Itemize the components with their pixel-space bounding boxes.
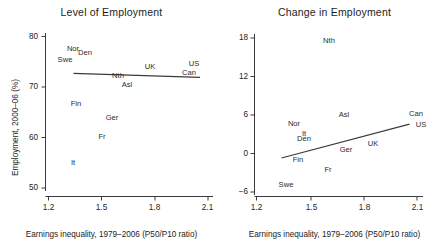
y-tick-label-0: 0 [225, 149, 248, 158]
data-point-fin: Fin [65, 99, 87, 108]
data-point-can: Can [178, 68, 200, 77]
data-point-it: It [62, 158, 84, 167]
x-axis-title-left: Earnings inequality, 1979–2006 (P50/P10 … [0, 230, 223, 239]
data-point-ger: Ger [101, 113, 123, 122]
data-point-nor: Nor [283, 119, 305, 128]
data-point-nth: Nth [318, 36, 340, 45]
y-axis-title-left: Employment, 2000–06 (%) [11, 79, 20, 176]
y-tick-label-80: 80 [16, 32, 38, 41]
data-point-uk: UK [139, 62, 161, 71]
x-axis-title-right: Earnings inequality, 1979–2006 (P50/P10 … [223, 230, 446, 239]
data-point-asl: Asl [116, 80, 138, 89]
data-point-uk: UK [362, 139, 384, 148]
data-point-us: US [410, 120, 432, 129]
data-point-den: Den [74, 48, 96, 57]
data-point-us: US [183, 59, 205, 68]
y-tick-label-50: 50 [16, 183, 38, 192]
data-point-den: Den [293, 134, 315, 143]
x-tick-label-1-5: 1.5 [87, 203, 116, 212]
y-tick-label-12: 12 [225, 72, 248, 81]
x-tick-label-1-8: 1.8 [350, 203, 379, 212]
y-tick-label-neg6: −6 [223, 187, 248, 196]
panel-change-in-employment: Change in Employment 18 12 6 0 −6 [223, 0, 446, 242]
data-point-can: Can [405, 109, 427, 118]
data-point-ger: Ger [335, 145, 357, 154]
x-tick-label-1-8: 1.8 [140, 203, 169, 212]
figure-two-panel-scatter: Level of Employment 80 70 60 50 1.2 1.5 [0, 0, 446, 242]
data-point-nth: Nth [107, 71, 129, 80]
x-tick-label-2-1: 2.1 [403, 203, 432, 212]
x-tick-label-1-2: 1.2 [34, 203, 63, 212]
panel-level-of-employment: Level of Employment 80 70 60 50 1.2 1.5 [0, 0, 223, 242]
y-tick-label-6: 6 [225, 110, 248, 119]
y-tick-label-18: 18 [225, 33, 248, 42]
data-point-swe: Swe [275, 180, 297, 189]
data-point-swe: Swe [54, 55, 76, 64]
x-tick-label-1-2: 1.2 [242, 203, 271, 212]
data-point-fr: Fr [91, 132, 113, 141]
x-tick-label-2-1: 2.1 [193, 203, 222, 212]
data-point-asl: Asl [333, 110, 355, 119]
data-point-fin: Fin [287, 155, 309, 164]
x-tick-label-1-5: 1.5 [297, 203, 326, 212]
data-point-fr: Fr [317, 165, 339, 174]
